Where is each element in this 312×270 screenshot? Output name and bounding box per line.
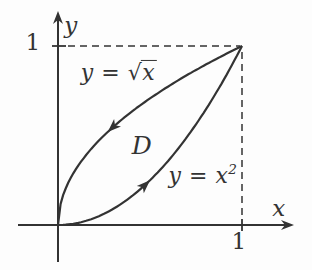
sqrt-label-head: y = bbox=[81, 60, 128, 85]
parabola-label-exponent: 2 bbox=[228, 161, 237, 177]
x-tick-label: 1 bbox=[231, 230, 246, 253]
y-tick-label: 1 bbox=[25, 31, 40, 54]
region-label: D bbox=[132, 133, 153, 158]
parabola-curve-label: y = x2 bbox=[169, 163, 238, 186]
sqrt-label-radicand: x bbox=[141, 60, 157, 84]
radical-sign: √ bbox=[128, 60, 143, 85]
sqrt-curve-label: y = √x bbox=[81, 60, 157, 84]
y-axis-label: y bbox=[64, 14, 78, 37]
figure-canvas: y x 1 1 y = √x y = x2 D bbox=[0, 0, 312, 270]
parabola-label-base: y = x bbox=[169, 163, 229, 188]
x-axis-label: x bbox=[272, 197, 285, 220]
plot-svg bbox=[0, 0, 312, 270]
